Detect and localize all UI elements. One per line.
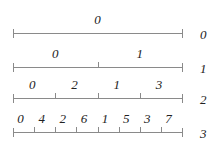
- tick-mark: [13, 29, 14, 38]
- segment-label: 3: [156, 78, 163, 91]
- tick-mark: [182, 128, 183, 137]
- level-label: 0: [200, 28, 207, 41]
- tick-mark: [13, 94, 14, 103]
- segment-label: 0: [29, 78, 36, 91]
- segment-label: 4: [38, 112, 45, 125]
- tick-mark: [13, 63, 14, 72]
- tick-mark: [55, 127, 56, 133]
- segment-label: 0: [52, 47, 59, 60]
- axis-line: [13, 33, 182, 34]
- segment-label: 7: [165, 112, 172, 125]
- tick-mark: [182, 63, 183, 72]
- level-label: 2: [200, 93, 207, 106]
- segment-label: 5: [123, 112, 130, 125]
- tick-mark: [182, 94, 183, 103]
- tick-mark: [182, 29, 183, 38]
- segment-label: 1: [113, 78, 120, 91]
- tick-mark: [140, 93, 141, 99]
- tick-mark: [76, 127, 77, 133]
- segment-label: 0: [94, 13, 101, 26]
- tick-mark: [98, 62, 99, 68]
- segment-label: 2: [60, 112, 67, 125]
- tick-mark: [98, 93, 99, 99]
- level-label: 1: [200, 62, 207, 75]
- segment-label: 3: [144, 112, 151, 125]
- tick-mark: [34, 127, 35, 133]
- segment-label: 2: [71, 78, 78, 91]
- segment-label: 1: [102, 112, 109, 125]
- segment-label: 0: [17, 112, 24, 125]
- level-label: 3: [200, 127, 207, 140]
- tick-mark: [13, 128, 14, 137]
- bit-reversal-diagram: 0001102132042615373: [0, 0, 219, 162]
- tick-mark: [55, 93, 56, 99]
- segment-label: 1: [137, 47, 144, 60]
- tick-mark: [140, 127, 141, 133]
- segment-label: 6: [81, 112, 88, 125]
- tick-mark: [119, 127, 120, 133]
- tick-mark: [98, 127, 99, 133]
- tick-mark: [161, 127, 162, 133]
